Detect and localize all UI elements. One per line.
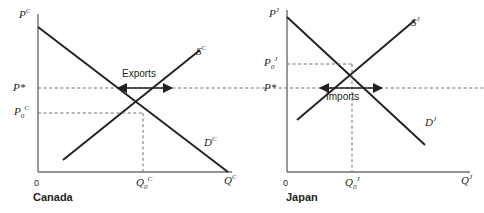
trade-equilibrium-figure	[0, 0, 484, 213]
figure-background	[0, 0, 484, 213]
